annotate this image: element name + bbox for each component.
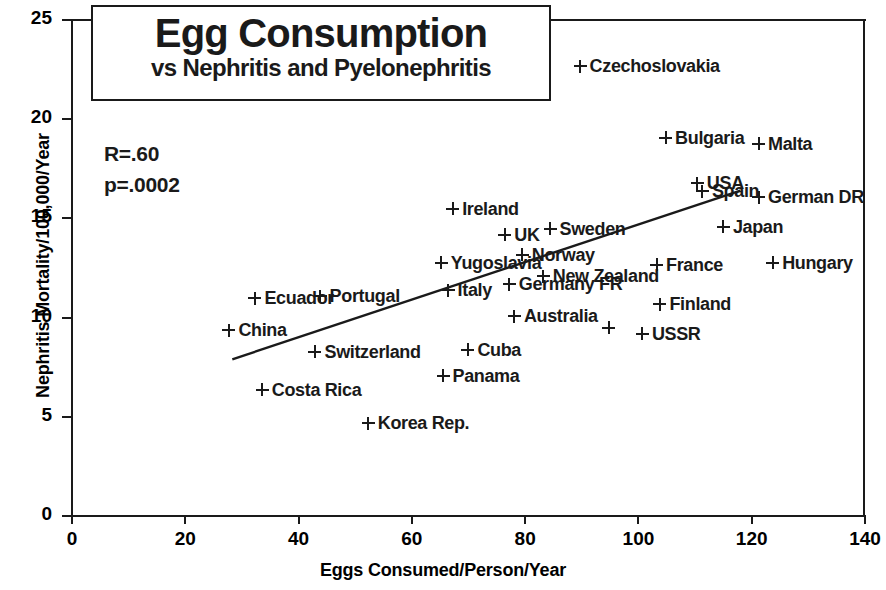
data-point-label: Czechoslovakia bbox=[590, 57, 720, 75]
x-tick bbox=[637, 515, 639, 524]
data-point: German DR bbox=[752, 188, 864, 206]
data-point-label: Bulgaria bbox=[675, 129, 744, 147]
data-point: USSR bbox=[636, 325, 701, 343]
x-tick bbox=[184, 515, 186, 524]
data-point-label: Portugal bbox=[330, 287, 400, 305]
plus-marker-icon bbox=[435, 256, 448, 269]
plus-marker-icon bbox=[503, 278, 516, 291]
data-point-label: Germany FR bbox=[519, 275, 623, 293]
data-point: Sweden bbox=[544, 220, 626, 238]
data-point-label: Panama bbox=[453, 367, 520, 385]
plus-marker-icon bbox=[362, 417, 375, 430]
x-tick bbox=[751, 515, 753, 524]
plus-marker-icon bbox=[574, 60, 587, 73]
data-point: Korea Rep. bbox=[362, 414, 470, 432]
data-point: Costa Rica bbox=[256, 381, 362, 399]
x-tick-label: 60 bbox=[382, 528, 442, 550]
x-tick-label: 40 bbox=[269, 528, 329, 550]
x-tick-label: 140 bbox=[835, 528, 886, 550]
data-point: Spain bbox=[696, 182, 759, 200]
data-point: Hungary bbox=[766, 254, 853, 272]
data-point-label: Australia bbox=[524, 307, 598, 325]
data-point-label: France bbox=[666, 256, 723, 274]
x-tick bbox=[864, 515, 866, 524]
data-point-label: Costa Rica bbox=[272, 381, 362, 399]
plus-marker-icon bbox=[508, 310, 521, 323]
y-axis-line bbox=[71, 20, 73, 518]
plus-marker-icon bbox=[602, 321, 615, 334]
x-tick-label: 100 bbox=[608, 528, 668, 550]
data-point-label: Finland bbox=[669, 295, 731, 313]
plus-marker-icon bbox=[248, 292, 261, 305]
plus-marker-icon bbox=[442, 284, 455, 297]
x-tick-label: 20 bbox=[155, 528, 215, 550]
data-point: Australia bbox=[508, 307, 598, 325]
x-tick bbox=[71, 515, 73, 524]
data-point-label: Yugoslavia bbox=[451, 254, 542, 272]
data-point-label: Sweden bbox=[560, 220, 626, 238]
data-point-label: Italy bbox=[458, 281, 492, 299]
data-point-label: UK bbox=[514, 226, 539, 244]
y-tick-label: 25 bbox=[0, 7, 52, 29]
data-point: Italy bbox=[442, 281, 492, 299]
x-tick bbox=[524, 515, 526, 524]
data-point: Cuba bbox=[461, 341, 521, 359]
plus-marker-icon bbox=[696, 185, 709, 198]
plus-marker-icon bbox=[752, 191, 765, 204]
p-value-text: p=.0002 bbox=[104, 169, 180, 200]
data-point: Panama bbox=[437, 367, 520, 385]
plus-marker-icon bbox=[308, 345, 321, 358]
x-tick bbox=[411, 515, 413, 524]
plot-right-border bbox=[863, 20, 865, 517]
plus-marker-icon bbox=[636, 327, 649, 340]
statistics-annotation: R=.60 p=.0002 bbox=[104, 138, 180, 200]
plus-marker-icon bbox=[498, 228, 511, 241]
data-point-label: Ecuador bbox=[264, 289, 334, 307]
x-axis-title: Eggs Consumed/Person/Year bbox=[0, 560, 886, 581]
data-point: China bbox=[222, 321, 286, 339]
data-point-label: China bbox=[238, 321, 286, 339]
x-axis-line bbox=[71, 515, 866, 517]
x-tick bbox=[298, 515, 300, 524]
data-point: UK bbox=[498, 226, 539, 244]
data-point: Ireland bbox=[446, 200, 519, 218]
x-tick-label: 120 bbox=[722, 528, 782, 550]
data-point: Ecuador bbox=[248, 289, 334, 307]
chart-title: Egg Consumption bbox=[93, 11, 549, 55]
y-tick bbox=[62, 317, 72, 319]
y-tick bbox=[62, 118, 72, 120]
plus-marker-icon bbox=[461, 343, 474, 356]
scatter-chart: 0510152025 020406080100120140 Nephritis … bbox=[0, 0, 886, 590]
data-point: Bulgaria bbox=[659, 129, 744, 147]
data-point: Japan bbox=[717, 218, 783, 236]
data-point-label: German DR bbox=[768, 188, 864, 206]
r-value-text: R=.60 bbox=[104, 138, 180, 169]
data-point: Czechoslovakia bbox=[574, 57, 720, 75]
data-point: Finland bbox=[653, 295, 731, 313]
data-point-label: Malta bbox=[768, 135, 812, 153]
data-point bbox=[602, 321, 615, 334]
data-point: Switzerland bbox=[308, 343, 420, 361]
plus-marker-icon bbox=[222, 324, 235, 337]
plus-marker-icon bbox=[446, 202, 459, 215]
plus-marker-icon bbox=[659, 131, 672, 144]
plus-marker-icon bbox=[766, 256, 779, 269]
data-point-label: Switzerland bbox=[324, 343, 420, 361]
data-point-label: Ireland bbox=[462, 200, 519, 218]
plus-marker-icon bbox=[544, 222, 557, 235]
y-tick bbox=[62, 19, 72, 21]
plus-marker-icon bbox=[717, 220, 730, 233]
plus-marker-icon bbox=[437, 369, 450, 382]
y-tick-label: 0 bbox=[0, 503, 52, 525]
y-tick bbox=[62, 217, 72, 219]
data-point-label: USSR bbox=[652, 325, 701, 343]
data-point-label: Cuba bbox=[477, 341, 521, 359]
plus-marker-icon bbox=[653, 298, 666, 311]
data-point: Malta bbox=[752, 135, 812, 153]
y-axis-title: Nephritis Mortality/100,000/Year bbox=[33, 31, 54, 501]
data-point: Germany FR bbox=[503, 275, 623, 293]
plus-marker-icon bbox=[752, 137, 765, 150]
chart-title-box: Egg Consumption vs Nephritis and Pyelone… bbox=[91, 5, 551, 101]
data-point-label: Japan bbox=[733, 218, 783, 236]
y-tick bbox=[62, 416, 72, 418]
